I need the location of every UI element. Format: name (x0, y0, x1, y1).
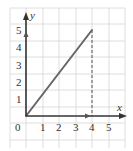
x-tick-label: 2 (56, 121, 62, 133)
x-tick-label: 1 (40, 121, 46, 133)
y-tick-label: 2 (16, 76, 22, 88)
x-tick-label: 3 (73, 121, 79, 133)
x-axis-arrow-icon (119, 113, 127, 119)
y-tick-label: 1 (16, 93, 22, 105)
y-axis-midpoint-arrow-icon (24, 31, 29, 37)
y-tick-label: 3 (16, 59, 22, 71)
y-axis-arrow-icon (23, 12, 29, 20)
y-axis-label: y (29, 9, 35, 21)
line-chart: y x 5 4 3 2 1 0 1 2 3 4 5 (0, 0, 133, 151)
x-tick-label: 4 (89, 121, 95, 133)
origin-label: 0 (15, 121, 21, 133)
x-axis-label: x (116, 101, 122, 113)
x-tick-label: 5 (106, 121, 112, 133)
y-tick-label: 4 (16, 41, 22, 53)
x-axis-midpoint-arrow-icon (85, 114, 91, 119)
y-tick-label: 5 (16, 24, 22, 36)
